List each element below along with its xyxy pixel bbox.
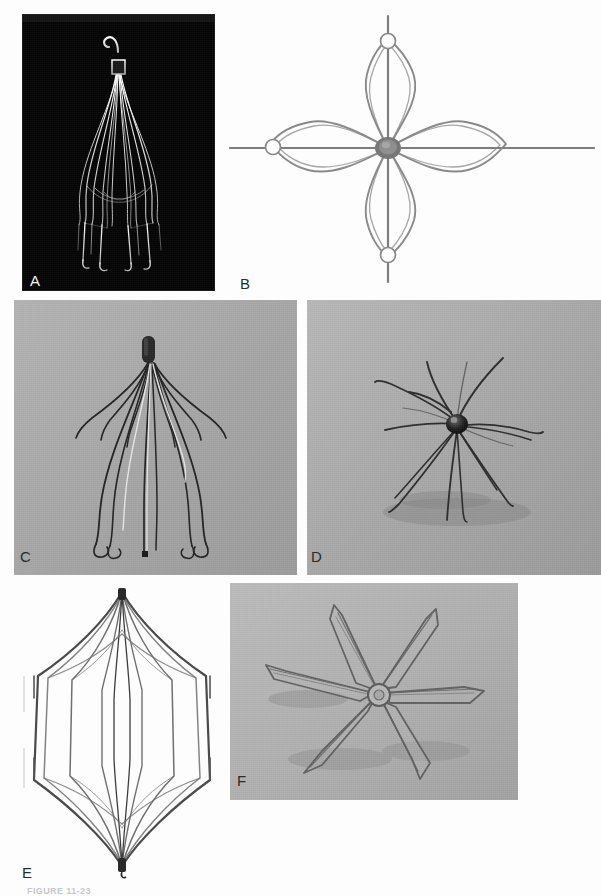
central-ring-f	[368, 684, 390, 706]
central-hub-d	[446, 414, 468, 434]
panel-f: F	[230, 583, 518, 800]
panel-label-a: A	[30, 272, 41, 289]
bottom-crimp-e	[118, 858, 126, 878]
filter-illustration-d	[307, 300, 601, 575]
panel-d: D	[307, 300, 601, 575]
filter-illustration-e	[10, 580, 235, 880]
panel-e: E	[10, 580, 235, 880]
filter-illustration-f	[230, 583, 518, 800]
apex-cap-c	[142, 336, 155, 363]
panel-label-d: D	[311, 548, 322, 565]
filter-illustration-a	[22, 14, 215, 291]
panel-label-e: E	[22, 864, 33, 880]
panel-label-c: C	[20, 548, 31, 565]
filter-illustration-c	[14, 300, 297, 575]
figure-page: A	[0, 0, 601, 896]
apex-crimp-e	[118, 588, 126, 600]
figure-caption: FIGURE 11-23	[27, 886, 91, 896]
panel-c: C	[14, 300, 297, 575]
central-hub-b	[375, 137, 401, 159]
panel-label-b: B	[240, 275, 251, 292]
panel-a: A	[22, 14, 215, 291]
panel-label-f: F	[237, 772, 247, 789]
filter-illustration-b	[222, 10, 601, 295]
leg-tip-bead-c	[142, 551, 148, 557]
panel-b: B	[222, 10, 601, 295]
